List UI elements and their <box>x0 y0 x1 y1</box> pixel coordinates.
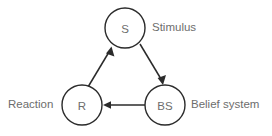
node-belief-system[interactable]: BS <box>145 85 185 125</box>
edge-reaction-to-stimulus <box>88 47 114 88</box>
edge-stimulus-to-belief-system <box>140 44 166 85</box>
node-belief-system-abbreviation: BS <box>157 100 173 112</box>
diagram-canvas: S R BS <box>0 0 272 136</box>
edge-line-reaction-to-stimulus <box>88 52 109 87</box>
node-reaction[interactable]: R <box>62 85 102 125</box>
node-belief-system-label: Belief system <box>191 98 259 111</box>
node-reaction-label: Reaction <box>8 98 53 111</box>
arrowhead-belief-system-to-reaction <box>103 101 111 109</box>
node-stimulus[interactable]: S <box>105 8 145 48</box>
edge-line-stimulus-to-belief-system <box>140 44 161 79</box>
stimulus-belief-reaction-diagram: S R BS Stimulus Reaction Belief system <box>0 0 272 136</box>
node-stimulus-abbreviation: S <box>121 23 129 35</box>
node-reaction-abbreviation: R <box>78 100 86 112</box>
edge-belief-system-to-reaction <box>103 101 145 109</box>
node-stimulus-label: Stimulus <box>152 21 196 34</box>
